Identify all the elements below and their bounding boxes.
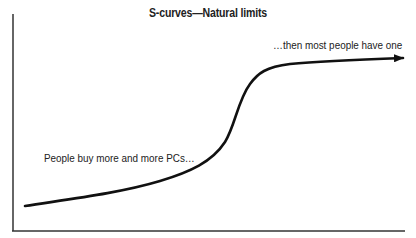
s-curve-line — [25, 58, 403, 206]
s-curve-plot — [0, 0, 416, 238]
annotation-early: People buy more and more PCs… — [44, 152, 195, 164]
annotation-late: …then most people have one — [273, 39, 402, 51]
